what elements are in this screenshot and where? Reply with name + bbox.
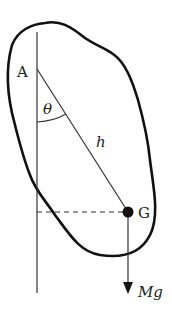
center-of-mass-label: G	[138, 204, 150, 222]
center-of-mass-dot	[123, 207, 134, 218]
distance-label: h	[96, 133, 106, 151]
physical-pendulum-diagram: A θ h G Mg	[0, 0, 172, 314]
pivot-label: A	[16, 63, 28, 81]
pivot-to-com-line	[37, 69, 128, 212]
angle-label: θ	[43, 100, 52, 118]
weight-vector-arrowhead-icon	[123, 282, 133, 294]
weight-label: Mg	[137, 283, 163, 301]
